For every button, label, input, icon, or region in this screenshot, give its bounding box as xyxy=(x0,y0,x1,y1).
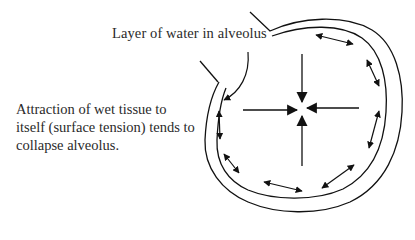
tension-double-arrows xyxy=(219,35,379,191)
double-arrow xyxy=(369,111,379,148)
inward-collapse-arrows xyxy=(243,54,359,166)
double-arrow xyxy=(224,154,239,173)
caption-line-2: itself (surface tension) tends to xyxy=(16,118,206,136)
double-arrow xyxy=(322,165,354,188)
water-layer-pointer-arrow xyxy=(224,52,248,100)
surface-tension-caption: Attraction of wet tissue to itself (surf… xyxy=(16,100,206,154)
double-arrow xyxy=(367,60,379,86)
caption-line-3: collapse alveolus. xyxy=(16,136,206,154)
double-arrow xyxy=(316,35,353,44)
double-arrow xyxy=(264,182,302,191)
caption-line-1: Attraction of wet tissue to xyxy=(16,100,206,118)
alveolus-inner-wall xyxy=(200,27,386,198)
water-layer-label: Layer of water in alveolus xyxy=(112,24,267,42)
